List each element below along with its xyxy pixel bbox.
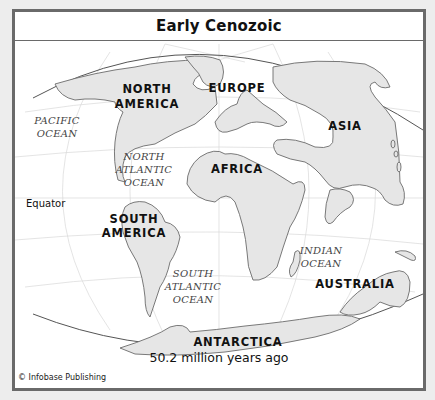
label-pacific-ocean: PACIFIC bbox=[33, 115, 79, 126]
japan-island bbox=[391, 140, 395, 148]
label-south-atlantic: SOUTH bbox=[173, 268, 213, 279]
world-map: NORTH AMERICA EUROPE ASIA AFRICA SOUTH A… bbox=[15, 12, 423, 388]
label-africa: AFRICA bbox=[211, 162, 263, 176]
label-indian-ocean: INDIAN bbox=[299, 245, 343, 256]
label-south-atlantic-2: ATLANTIC bbox=[164, 281, 222, 292]
time-caption: 50.2 million years ago bbox=[15, 350, 423, 365]
label-europe: EUROPE bbox=[209, 81, 266, 95]
map-frame: Early Cenozoic bbox=[12, 9, 426, 391]
label-pacific-ocean-2: OCEAN bbox=[37, 128, 79, 139]
label-south-america: SOUTH bbox=[110, 212, 159, 226]
new-zealand-landmass bbox=[395, 251, 416, 261]
label-indian-ocean-2: OCEAN bbox=[301, 258, 343, 269]
label-equator: Equator bbox=[26, 198, 66, 209]
label-north-atlantic-3: OCEAN bbox=[124, 177, 166, 188]
label-antarctica: ANTARCTICA bbox=[193, 335, 282, 349]
label-north-atlantic-2: ATLANTIC bbox=[115, 164, 173, 175]
japan-island bbox=[394, 151, 398, 157]
label-south-america-2: AMERICA bbox=[102, 226, 166, 240]
europe-landmass bbox=[215, 90, 287, 132]
label-asia: ASIA bbox=[328, 119, 362, 133]
label-south-atlantic-3: OCEAN bbox=[173, 294, 215, 305]
copyright-credit: © Infobase Publishing bbox=[18, 373, 106, 382]
label-north-america: NORTH bbox=[122, 82, 171, 96]
label-north-america-2: AMERICA bbox=[115, 97, 179, 111]
label-australia: AUSTRALIA bbox=[315, 277, 394, 291]
label-north-atlantic: NORTH bbox=[122, 151, 164, 162]
india-landmass bbox=[325, 189, 354, 224]
japan-island bbox=[397, 162, 401, 172]
madagascar-landmass bbox=[289, 251, 300, 277]
